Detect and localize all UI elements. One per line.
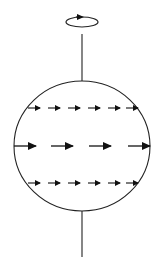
rotating-sphere-diagram (0, 0, 160, 270)
rotation-ellipse (66, 17, 98, 27)
flow-arrows (14, 108, 150, 183)
rotation-arrow-icon (66, 17, 98, 27)
diagram-svg (0, 0, 160, 270)
